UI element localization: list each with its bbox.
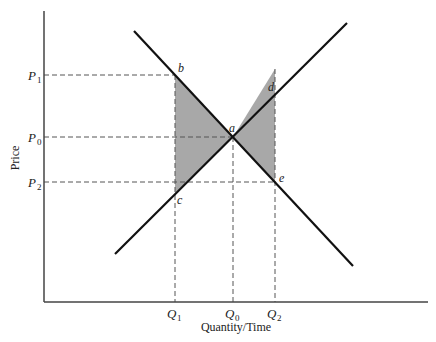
supply-curve	[115, 23, 347, 254]
price-tick-p0: P 0	[27, 130, 42, 147]
point-e-label: e	[279, 171, 285, 185]
svg-text:1: 1	[177, 313, 182, 323]
point-a-label: a	[229, 121, 235, 135]
point-b-label: b	[178, 61, 184, 75]
svg-text:P: P	[27, 68, 36, 83]
left-shaded-triangle	[175, 75, 233, 193]
supply-demand-diagram: b a c d e P 1 P 0 P 2 Q 1 Q 0 Q 2 Quanti…	[0, 0, 436, 342]
svg-text:0: 0	[37, 137, 42, 147]
demand-curve	[134, 31, 353, 266]
quantity-tick-q1: Q 1	[167, 306, 182, 323]
svg-text:Q: Q	[225, 306, 235, 321]
point-c-label: c	[177, 193, 183, 207]
price-tick-p1: P 1	[27, 68, 42, 85]
y-axis-label: Price	[8, 146, 22, 171]
x-axis-label: Quantity/Time	[201, 320, 271, 334]
price-tick-p2: P 2	[27, 175, 42, 192]
svg-text:2: 2	[277, 313, 282, 323]
svg-text:2: 2	[37, 182, 42, 192]
svg-text:Q: Q	[267, 306, 277, 321]
svg-text:1: 1	[37, 75, 42, 85]
svg-text:P: P	[27, 175, 36, 190]
point-d-label: d	[268, 80, 275, 94]
svg-text:P: P	[27, 130, 36, 145]
svg-text:Q: Q	[167, 306, 177, 321]
